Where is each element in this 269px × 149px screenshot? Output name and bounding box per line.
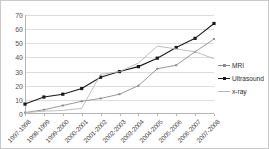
y-tick-mark: [21, 29, 23, 30]
line-chart: 010203040506070 1997-19981998-19991999-2…: [0, 0, 269, 149]
legend-line-icon: [218, 91, 230, 92]
x-tick-mark: [120, 114, 121, 116]
data-point: [213, 38, 215, 40]
y-tick-label: 20: [3, 82, 23, 89]
legend-item-ultrasound[interactable]: Ultrasound: [218, 72, 268, 85]
data-point: [62, 105, 64, 107]
series-line-x-ray: [25, 46, 214, 112]
y-tick-label: 10: [3, 96, 23, 103]
y-tick-mark: [21, 43, 23, 44]
data-point: [43, 109, 45, 111]
x-tick-mark: [138, 114, 139, 116]
data-point: [175, 64, 177, 66]
data-point: [212, 22, 215, 25]
data-point: [61, 93, 64, 96]
x-tick-mark: [214, 114, 215, 116]
data-point: [137, 65, 140, 68]
series-line-ultrasound: [25, 23, 214, 104]
legend-label-ultrasound: Ultrasound: [232, 75, 264, 83]
legend-swatch-xray: [218, 87, 230, 96]
y-tick-label: 70: [3, 12, 23, 19]
series-layer: [25, 15, 214, 114]
data-point: [100, 97, 102, 99]
legend-item-mri[interactable]: MRI: [218, 59, 268, 72]
y-tick-label: 60: [3, 26, 23, 33]
x-tick-mark: [101, 114, 102, 116]
y-tick-label: 50: [3, 40, 23, 47]
y-tick-mark: [21, 100, 23, 101]
chart-legend: MRI Ultrasound x-ray: [218, 59, 268, 98]
legend-marker-icon: [223, 64, 226, 67]
y-tick-mark: [21, 114, 23, 115]
legend-swatch-ultrasound: [218, 74, 230, 83]
y-tick-mark: [21, 72, 23, 73]
legend-label-xray: x-ray: [232, 88, 247, 96]
legend-label-mri: MRI: [232, 62, 244, 70]
legend-marker-icon: [223, 77, 226, 80]
y-tick-label: 30: [3, 68, 23, 75]
x-tick-mark: [176, 114, 177, 116]
y-tick-mark: [21, 57, 23, 58]
data-point: [156, 57, 159, 60]
data-point: [80, 87, 83, 90]
data-point: [23, 103, 26, 106]
data-point: [137, 85, 139, 87]
legend-swatch-mri: [218, 61, 230, 70]
y-axis: 010203040506070: [1, 15, 23, 114]
y-tick-label: 40: [3, 54, 23, 61]
x-tick-mark: [195, 114, 196, 116]
x-tick-mark: [63, 114, 64, 116]
x-tick-mark: [25, 114, 26, 116]
x-tick-mark: [82, 114, 83, 116]
y-tick-mark: [21, 86, 23, 87]
legend-item-xray[interactable]: x-ray: [218, 85, 268, 98]
data-point: [156, 68, 158, 70]
y-tick-mark: [21, 15, 23, 16]
data-point: [119, 93, 121, 95]
x-tick-mark: [44, 114, 45, 116]
y-tick-label: 0: [3, 111, 23, 118]
x-tick-mark: [157, 114, 158, 116]
data-point: [81, 100, 83, 102]
data-point: [42, 95, 45, 98]
x-axis: 1997-19981998-19991999-20002000-20012001…: [25, 114, 214, 149]
data-point: [194, 37, 197, 40]
